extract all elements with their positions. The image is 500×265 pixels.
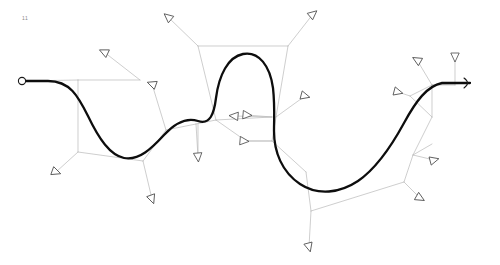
corner-label: 11 [22,15,28,21]
start-point-circle-icon [18,77,25,84]
diagram-svg: 11 [0,0,500,265]
canvas-background [0,0,500,265]
figure-canvas: 11 [0,0,500,265]
